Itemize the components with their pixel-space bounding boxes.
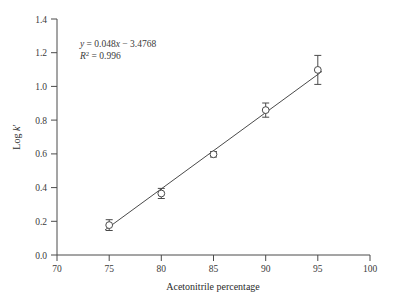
x-axis-title: Acetonitrile percentage — [166, 281, 260, 292]
marker-open-circle — [210, 151, 217, 158]
equation-text: y = 0.048x − 3.4768 — [79, 39, 156, 49]
marker-open-circle — [106, 222, 113, 229]
x-tick-label: 95 — [313, 264, 323, 274]
y-tick-label: 1.0 — [35, 82, 47, 92]
y-axis-title: Log k′ — [11, 124, 22, 149]
x-tick-label: 75 — [104, 264, 114, 274]
y-tick-label: 0.8 — [35, 116, 47, 126]
marker-open-circle — [158, 190, 165, 197]
r-squared-value: = 0.996 — [89, 51, 121, 61]
y-tick-label: 1.4 — [35, 15, 47, 25]
x-tick-label: 85 — [209, 264, 219, 274]
y-axis-title-main: Log — [11, 131, 22, 150]
y-tick-label: 1.2 — [35, 48, 47, 58]
svg-text:Log k′: Log k′ — [11, 124, 22, 149]
equation-coefficient: = 0.048 — [84, 39, 116, 49]
y-tick-label: 0.6 — [35, 149, 47, 159]
data-point — [210, 151, 217, 158]
x-tick-label: 90 — [261, 264, 271, 274]
scatter-plot: 0.0 0.2 0.4 0.6 0.8 1.0 1.2 1.4 70 75 80… — [0, 0, 395, 300]
marker-open-circle — [314, 67, 321, 74]
x-tick-label: 70 — [52, 264, 62, 274]
x-tick-label: 100 — [363, 264, 378, 274]
y-tick-label: 0.4 — [35, 183, 47, 193]
y-tick-label: 0.0 — [35, 251, 47, 261]
marker-open-circle — [262, 107, 269, 114]
x-tick-label: 80 — [157, 264, 167, 274]
y-axis-title-prime: ′ — [11, 124, 22, 126]
r-squared-text: R2 = 0.996 — [79, 50, 121, 62]
equation-tail: − 3.4768 — [120, 39, 156, 49]
y-tick-label: 0.2 — [35, 217, 47, 227]
chart-figure: 0.0 0.2 0.4 0.6 0.8 1.0 1.2 1.4 70 75 80… — [0, 0, 395, 300]
